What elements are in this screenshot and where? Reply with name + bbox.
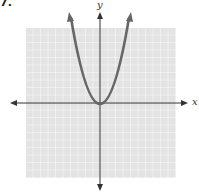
arrow-down-icon bbox=[97, 184, 103, 191]
arrow-up-icon bbox=[97, 12, 103, 19]
curve-arrow-left-icon bbox=[67, 12, 74, 22]
x-axis-label: x bbox=[192, 96, 198, 107]
arrow-right-icon bbox=[181, 100, 188, 106]
y-axis-label: y bbox=[97, 0, 103, 10]
arrow-left-icon bbox=[10, 100, 17, 106]
curve-arrow-right-icon bbox=[126, 12, 133, 22]
coordinate-graph bbox=[0, 0, 199, 195]
